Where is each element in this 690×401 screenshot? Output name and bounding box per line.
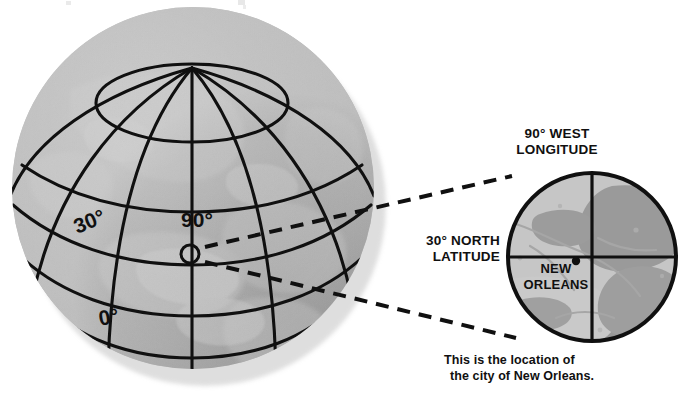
figure-caption-line1: This is the location of	[444, 353, 576, 367]
globe-location-figure: 30° 90° 0°	[0, 0, 690, 401]
longitude-callout-line1: 90° WEST	[525, 126, 590, 141]
latitude-callout-line1: 30° NORTH	[426, 233, 500, 248]
city-label-line1: NEW	[541, 261, 572, 276]
figure-caption-line2: the city of New Orleans.	[450, 369, 594, 383]
new-orleans-city-dot	[572, 257, 580, 265]
longitude-callout-line2: LONGITUDE	[516, 142, 597, 157]
city-label-line2: ORLEANS	[524, 277, 589, 292]
latitude-0-label: 0°	[97, 304, 121, 330]
longitude-90-label: 90°	[181, 208, 213, 231]
latitude-callout-line2: LATITUDE	[433, 249, 500, 264]
figure-canvas: 30° 90° 0°	[0, 0, 690, 401]
